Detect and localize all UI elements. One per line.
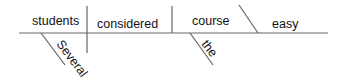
object-word: course	[192, 15, 230, 28]
complement-slash	[239, 5, 258, 33]
diagram-lines	[0, 0, 341, 83]
complement-word: easy	[272, 18, 298, 31]
verb-word: considered	[97, 18, 158, 31]
subject-word: students	[32, 15, 79, 28]
